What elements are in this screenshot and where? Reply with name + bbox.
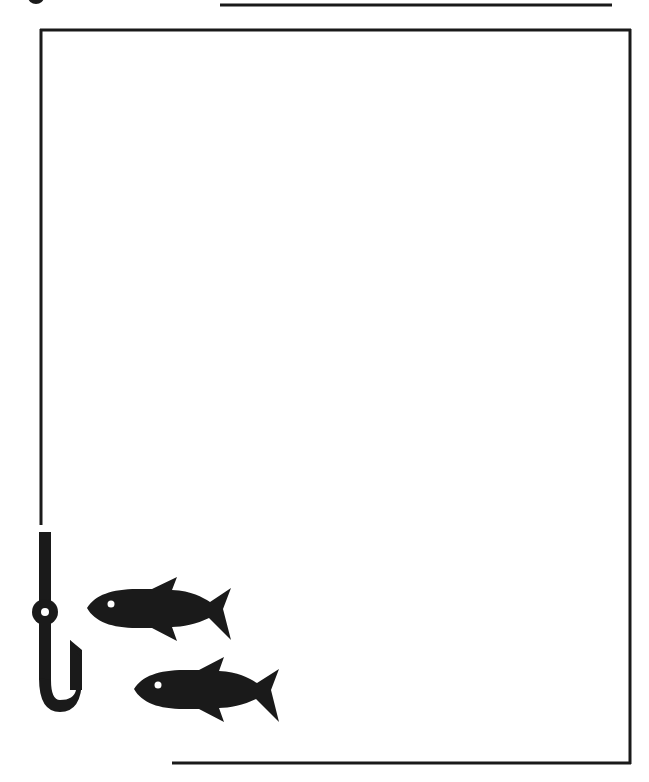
fish-icon — [134, 657, 279, 722]
fish-icon — [87, 577, 231, 641]
fishing-hook-icon — [32, 532, 82, 712]
frame-border — [40, 29, 631, 764]
page-border-art — [0, 0, 649, 782]
